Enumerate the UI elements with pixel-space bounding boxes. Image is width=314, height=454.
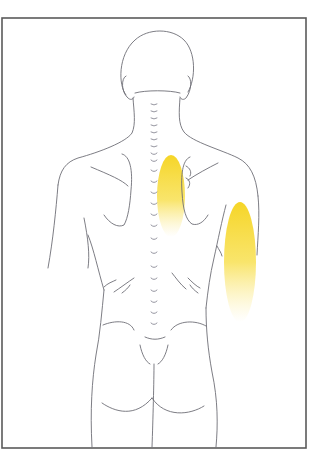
spine [151, 104, 157, 325]
pain-zone-scapular [157, 155, 185, 237]
pelvis [102, 322, 206, 447]
pain-zone-upper-arm [224, 202, 256, 322]
back-pain-referral-illustration [0, 0, 314, 454]
pain-zones [157, 155, 256, 322]
torso [91, 273, 217, 447]
left-arm [48, 185, 104, 290]
head [121, 31, 194, 99]
